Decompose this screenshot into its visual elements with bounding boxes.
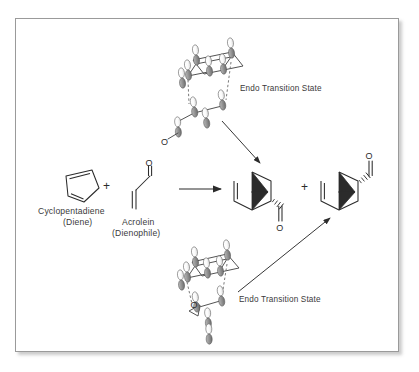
lower-endo-transition-state-label: Endo Transition State [239,295,321,304]
acrolein-role-label: (Dienophile) [112,228,160,238]
upper-endo-transition-state-label: Endo Transition State [240,84,322,93]
acrolein-name-label: Acrolein [122,217,154,227]
figure-root: O O [0,0,419,372]
cyclopentadiene-name-label: Cyclopentadiene [38,206,105,216]
cyclopentadiene-role-label: (Diene) [63,217,92,227]
figure-frame [15,18,399,352]
reactants-plus-symbol: + [103,180,110,192]
products-plus-symbol: + [301,181,308,193]
